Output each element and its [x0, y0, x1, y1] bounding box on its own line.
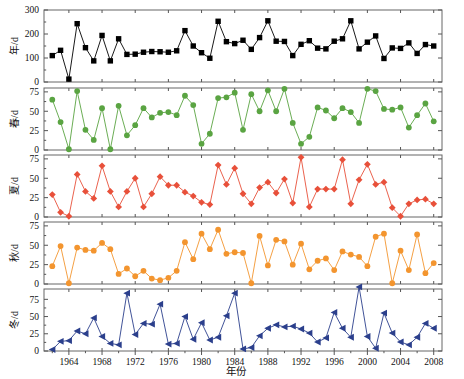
y-tick-label: 50 — [30, 174, 40, 184]
data-point — [83, 45, 88, 50]
data-point — [356, 46, 361, 51]
y-tick-label: 50 — [30, 312, 40, 322]
data-point — [381, 106, 387, 112]
data-point — [207, 56, 212, 61]
data-point — [406, 267, 412, 273]
data-point — [232, 249, 238, 255]
data-point — [282, 238, 288, 244]
data-point — [132, 273, 138, 279]
data-point — [49, 263, 55, 269]
x-tick-label: 1996 — [325, 357, 344, 367]
data-point — [182, 93, 188, 99]
y-axis-label-summer: 夏/d — [9, 177, 20, 195]
data-point — [248, 280, 254, 286]
data-point — [74, 21, 79, 26]
y-tick-label: 25 — [30, 193, 40, 203]
data-point — [414, 232, 420, 238]
data-point — [390, 45, 395, 50]
x-tick-label: 1988 — [258, 357, 277, 367]
y-tick-label: 75 — [30, 295, 40, 305]
x-tick-label: 1972 — [126, 357, 145, 367]
data-point — [273, 39, 278, 44]
data-point — [224, 251, 230, 257]
y-tick-label: 100 — [25, 53, 40, 63]
data-point — [348, 109, 354, 115]
chart-figure: 0100200300年/d0255075春/d0255075夏/d0255075… — [0, 0, 464, 379]
data-point — [191, 43, 196, 48]
data-point — [332, 39, 337, 44]
data-point — [232, 41, 237, 46]
data-point — [265, 18, 270, 23]
data-point — [83, 247, 89, 253]
data-point — [348, 252, 354, 258]
data-point — [257, 233, 263, 239]
data-point — [307, 38, 312, 43]
y-tick-label: 25 — [30, 126, 40, 136]
data-point — [215, 227, 221, 233]
data-point — [174, 48, 179, 53]
y-tick-label: 200 — [25, 29, 40, 39]
data-point — [398, 104, 404, 110]
data-point — [365, 39, 370, 44]
data-point — [323, 46, 328, 51]
y-axis-label-spring: 春/d — [9, 110, 20, 128]
data-point — [224, 39, 229, 44]
data-point — [381, 56, 386, 61]
data-point — [133, 51, 138, 56]
x-tick-label: 1976 — [159, 357, 178, 367]
data-point — [49, 97, 55, 103]
data-point — [91, 248, 97, 254]
data-point — [116, 103, 122, 109]
data-point — [199, 141, 205, 147]
data-point — [215, 95, 221, 101]
data-point — [340, 249, 346, 255]
data-point — [174, 268, 180, 274]
data-point — [257, 35, 262, 40]
data-point — [99, 33, 104, 38]
data-point — [190, 102, 196, 108]
data-point — [364, 86, 370, 92]
data-point — [116, 271, 122, 277]
data-point — [364, 263, 370, 269]
data-point — [356, 120, 362, 126]
data-point — [149, 276, 155, 282]
data-point — [423, 101, 429, 107]
x-tick-label: 1992 — [292, 357, 311, 367]
data-point — [290, 53, 295, 58]
data-point — [116, 36, 121, 41]
data-point — [141, 268, 147, 274]
data-point — [240, 250, 246, 256]
data-point — [215, 19, 220, 24]
y-tick-label: 50 — [30, 107, 40, 117]
y-tick-label: 50 — [30, 241, 40, 251]
data-point — [282, 39, 287, 44]
data-point — [265, 263, 271, 269]
data-point — [306, 134, 312, 140]
data-point — [373, 33, 378, 38]
x-tick-label: 1968 — [93, 357, 112, 367]
x-tick-label: 2004 — [391, 357, 410, 367]
data-point — [431, 118, 437, 124]
data-point — [290, 120, 296, 126]
data-point — [240, 38, 245, 43]
data-point — [165, 275, 171, 281]
data-point — [331, 115, 337, 121]
data-point — [132, 122, 138, 128]
y-tick-label: 25 — [30, 329, 40, 339]
data-point — [165, 109, 171, 115]
y-axis-label-winter: 冬/d — [8, 311, 20, 329]
x-tick-label: 1964 — [59, 357, 78, 367]
data-point — [265, 87, 271, 93]
data-point — [414, 112, 420, 118]
data-point — [315, 258, 321, 264]
x-tick-label: 2008 — [424, 357, 443, 367]
x-axis-title: 年份 — [226, 365, 247, 377]
data-point — [398, 248, 404, 254]
data-point — [298, 241, 304, 247]
data-point — [141, 50, 146, 55]
data-point — [66, 280, 72, 286]
data-point — [315, 45, 320, 50]
data-point — [248, 91, 254, 97]
data-point — [174, 112, 180, 118]
data-point — [431, 43, 436, 48]
